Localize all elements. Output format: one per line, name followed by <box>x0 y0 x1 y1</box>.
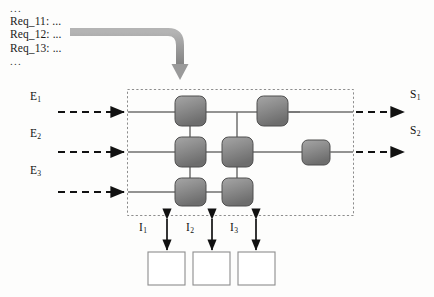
interface-arrows <box>167 219 256 250</box>
node-r3-c2[interactable] <box>222 178 253 206</box>
requirements-inflow-arrow <box>70 32 189 80</box>
diagram-canvas: ... Req_11: ... Req_12: ... Req_13: ... … <box>0 0 434 297</box>
output-arrows <box>356 112 404 152</box>
node-r1-c1[interactable] <box>175 96 206 126</box>
external-box-3[interactable] <box>238 252 275 285</box>
node-r2-c1[interactable] <box>175 137 206 167</box>
external-box-1[interactable] <box>148 252 185 285</box>
external-box-2[interactable] <box>193 252 230 285</box>
node-r2-c2[interactable] <box>222 137 253 167</box>
diagram-graphics <box>0 0 434 297</box>
node-r3-c1[interactable] <box>175 178 206 206</box>
node-r2-c4[interactable] <box>302 140 330 165</box>
node-r1-c3[interactable] <box>257 96 288 126</box>
external-box-group <box>148 252 275 285</box>
input-arrows <box>58 112 124 192</box>
